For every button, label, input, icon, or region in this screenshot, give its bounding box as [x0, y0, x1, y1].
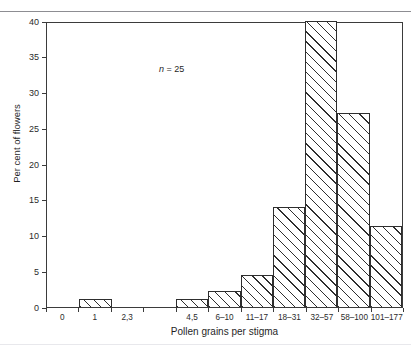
bar-slot — [305, 23, 337, 307]
y-axis-tick-label: 30 — [29, 89, 39, 98]
histogram-bar — [337, 113, 369, 307]
bar-slot — [241, 23, 273, 307]
y-axis-tick-label: 5 — [34, 267, 39, 276]
x-axis-tick-label — [143, 312, 175, 324]
bar-slot — [337, 23, 369, 307]
page-text-remnant-top — [0, 0, 411, 5]
histogram-figure: Per cent of flowers 0510152025303540 n =… — [0, 0, 411, 354]
x-axis-tick-label: 101–177 — [371, 312, 403, 324]
y-axis-tick-label: 10 — [29, 232, 39, 241]
x-axis-tick-label: 58–100 — [338, 312, 370, 324]
histogram-bar — [305, 21, 337, 307]
bar-slot — [47, 23, 79, 307]
histogram-bar — [241, 275, 273, 307]
sample-size-annotation: n = 25 — [159, 64, 184, 74]
y-axis-tick-label: 20 — [29, 160, 39, 169]
histogram-bar — [208, 291, 240, 307]
y-axis-tick-label: 35 — [29, 53, 39, 62]
x-axis-tick-label: 1 — [78, 312, 110, 324]
bar-slot — [208, 23, 240, 307]
x-axis-tick-label: 0 — [46, 312, 78, 324]
histogram-bar — [176, 299, 208, 307]
x-axis-tick-mark — [403, 308, 404, 312]
x-axis-title: Pollen grains per stigma — [46, 326, 403, 337]
y-axis-tick-label: 40 — [29, 17, 39, 26]
y-axis-ticks: 0510152025303540 — [0, 0, 46, 354]
sample-size-value: = 25 — [164, 64, 184, 74]
x-axis-tick-label: 2,3 — [111, 312, 143, 324]
bar-series — [47, 23, 402, 307]
bar-slot — [370, 23, 402, 307]
y-axis-tick-label: 25 — [29, 124, 39, 133]
bar-slot — [112, 23, 144, 307]
x-axis-tick-label: 18–31 — [273, 312, 305, 324]
plot-area: n = 25 — [46, 22, 403, 308]
x-axis-tick-label: 32–57 — [306, 312, 338, 324]
histogram-bar — [370, 226, 402, 307]
y-axis-tick-label: 0 — [34, 303, 39, 312]
x-axis-tick-label: 11–17 — [241, 312, 273, 324]
page-text-remnant-bottom — [0, 348, 411, 354]
x-axis-tick-label: 4,5 — [176, 312, 208, 324]
bar-slot — [79, 23, 111, 307]
horizontal-rule-top — [0, 11, 411, 12]
horizontal-rule-bottom — [0, 344, 411, 345]
histogram-bar — [79, 299, 111, 307]
y-axis-tick-label: 15 — [29, 196, 39, 205]
x-axis-tick-labels: 012,34,56–1011–1718–3132–5758–100101–177 — [46, 312, 403, 324]
histogram-bar — [273, 207, 305, 307]
x-axis-tick-label: 6–10 — [208, 312, 240, 324]
bar-slot — [273, 23, 305, 307]
